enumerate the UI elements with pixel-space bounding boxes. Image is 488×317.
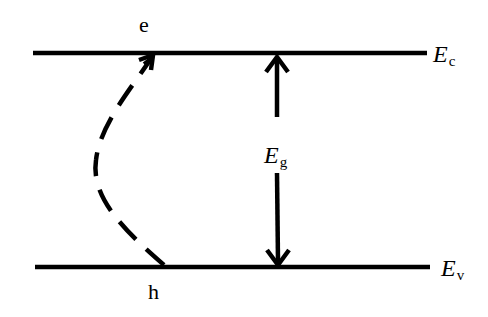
diagram-graphics [0,0,488,317]
dashed-transition-curve [95,60,164,265]
conduction-band-label: Ec [433,42,455,66]
band-gap-arrow-up [266,57,288,117]
hole-label: h [148,281,159,303]
band-gap-diagram: e h Ec Ev Eg [0,0,488,317]
band-gap-label: Eg [264,143,287,167]
electron-label: e [139,14,149,36]
valence-band-label: Ev [441,256,464,280]
band-gap-arrow-down [267,173,289,265]
